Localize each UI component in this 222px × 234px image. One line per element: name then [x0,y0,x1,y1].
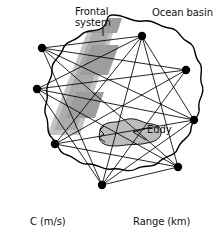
transceiver-node[interactable] [190,116,198,124]
frontal-system-region [47,18,122,135]
figure-canvas [0,0,222,234]
transceiver-node[interactable] [138,32,146,40]
transceiver-node[interactable] [98,181,106,189]
transceiver-node[interactable] [51,140,59,148]
transceiver-node[interactable] [174,163,182,171]
eddy-label: Eddy [147,124,172,135]
frontal-system-label-line1: Frontal [75,6,111,17]
transceiver-node[interactable] [33,85,41,93]
frontal-system-label: Frontal system [75,6,111,28]
ray-path [55,144,178,167]
transceiver-node[interactable] [182,66,190,74]
ocean-basin-figure: Frontal system Ocean basin Eddy C (m/s) … [0,0,222,234]
c-units-label: C (m/s) [30,216,66,227]
range-units-label: Range (km) [133,216,190,227]
ray-path [37,70,186,89]
transceiver-node[interactable] [38,44,46,52]
frontal-system-label-line2: system [75,17,111,28]
ray-path [142,36,178,167]
ocean-basin-label: Ocean basin [152,7,213,18]
